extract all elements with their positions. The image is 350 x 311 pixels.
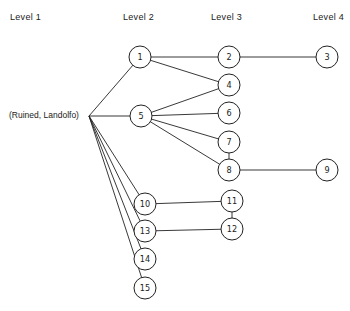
node-label: 10	[140, 199, 150, 209]
edge-5-8	[141, 116, 229, 170]
node-14: 14	[134, 248, 156, 270]
node-label: 7	[226, 137, 231, 147]
node-15: 15	[134, 277, 156, 299]
node-label: 12	[227, 224, 237, 234]
node-4: 4	[218, 74, 240, 96]
edge-root-13	[89, 116, 145, 231]
edge-5-6	[141, 113, 229, 116]
node-label: 11	[227, 196, 237, 206]
nodes-layer: 123456789101112131415	[129, 46, 338, 299]
node-13: 13	[134, 220, 156, 242]
node-label: 2	[226, 52, 231, 62]
edges-layer	[89, 57, 327, 288]
node-1: 1	[129, 46, 151, 68]
node-6: 6	[218, 102, 240, 124]
edge-13-12	[145, 229, 232, 231]
edge-5-4	[141, 85, 229, 116]
node-label: 14	[140, 254, 150, 264]
node-label: 6	[226, 108, 231, 118]
node-11: 11	[221, 190, 243, 212]
edge-10-11	[145, 201, 232, 204]
node-3: 3	[316, 46, 338, 68]
node-label: 13	[140, 226, 150, 236]
node-12: 12	[221, 218, 243, 240]
node-label: 5	[138, 111, 143, 121]
node-label: 4	[226, 80, 231, 90]
node-9: 9	[316, 159, 338, 181]
node-label: 3	[324, 52, 329, 62]
node-label: 1	[137, 52, 142, 62]
node-7: 7	[218, 131, 240, 153]
tree-diagram: 123456789101112131415	[0, 0, 350, 311]
edge-1-4	[140, 57, 229, 85]
node-8: 8	[218, 159, 240, 181]
node-label: 8	[226, 165, 231, 175]
node-2: 2	[218, 46, 240, 68]
edge-5-7	[141, 116, 229, 142]
node-10: 10	[134, 193, 156, 215]
node-5: 5	[130, 105, 152, 127]
edge-root-10	[89, 116, 145, 204]
edge-root-1	[89, 57, 140, 116]
node-label: 9	[324, 165, 329, 175]
node-label: 15	[140, 283, 150, 293]
